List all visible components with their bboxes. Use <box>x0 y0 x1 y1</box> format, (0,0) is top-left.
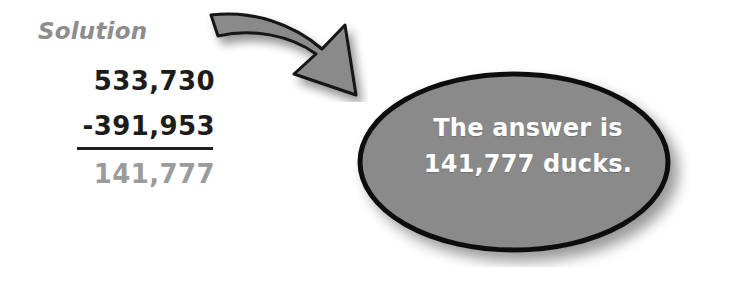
solution-heading: Solution <box>38 18 147 44</box>
minuend-value: 533,730 <box>0 66 215 96</box>
answer-callout: The answer is 141,777 ducks. <box>352 62 704 267</box>
subtraction-rule <box>77 147 213 150</box>
callout-ellipse-shape <box>352 62 704 267</box>
illustration-canvas: Solution 533,730 -391,953 141,777 <box>0 0 736 281</box>
subtrahend-value: -391,953 <box>0 111 215 141</box>
curved-arrow <box>198 2 368 102</box>
curved-arrow-icon <box>198 2 368 102</box>
difference-value: 141,777 <box>0 159 215 189</box>
